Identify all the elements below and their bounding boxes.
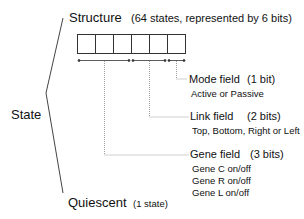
- quiescent-note: (1 state): [133, 198, 168, 209]
- gene-c-detail: Gene C on/off: [192, 163, 251, 174]
- mode-field-detail: Active or Passive: [191, 88, 264, 99]
- gene-r-detail: Gene R on/off: [192, 175, 251, 186]
- bit-boxes: [78, 35, 186, 54]
- structure-note: (64 states, represented by 6 bits): [131, 12, 292, 24]
- quiescent-label: Quiescent: [68, 195, 127, 210]
- link-field-bits: (2 bits): [247, 110, 281, 122]
- mode-field-bits: (1 bit): [247, 73, 275, 85]
- state-label: State: [11, 107, 41, 122]
- state-bracket: [46, 18, 63, 193]
- link-field-label: Link field: [190, 110, 233, 122]
- gene-field-bits: (3 bits): [250, 148, 284, 160]
- link-field-detail: Top, Bottom, Right or Left: [192, 125, 300, 136]
- gene-l-detail: Gene L on/off: [192, 187, 249, 198]
- structure-label: Structure: [69, 10, 122, 25]
- mode-field-label: Mode field: [189, 73, 240, 85]
- gene-field-label: Gene field: [190, 148, 240, 160]
